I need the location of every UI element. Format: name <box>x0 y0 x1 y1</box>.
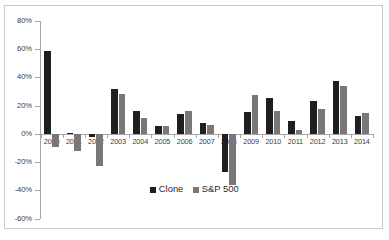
bar-clone-2009 <box>244 112 251 134</box>
value-axis-label: 40% <box>0 73 32 81</box>
bar-clone-2010 <box>266 98 273 134</box>
bar-clone-2007 <box>200 123 207 134</box>
category-axis-label: 2009 <box>240 138 262 145</box>
bar-clone-2008 <box>222 134 229 172</box>
value-axis-label: 0% <box>0 130 32 138</box>
category-axis-label: 2010 <box>262 138 284 145</box>
bar-clone-2001 <box>67 133 74 134</box>
bar-s-p-500-2006 <box>185 111 192 134</box>
category-axis-tick <box>373 134 374 138</box>
bar-s-p-500-2014 <box>362 113 369 134</box>
value-axis-tick <box>35 77 40 78</box>
value-axis-tick <box>35 162 40 163</box>
value-axis-tick <box>35 49 40 50</box>
bar-s-p-500-2002 <box>96 134 103 166</box>
value-axis-tick <box>35 106 40 107</box>
value-axis-tick <box>35 219 40 220</box>
value-axis-tick <box>35 134 40 135</box>
bar-s-p-500-2012 <box>318 109 325 134</box>
category-axis-label: 2004 <box>129 138 151 145</box>
bar-s-p-500-2013 <box>340 86 347 134</box>
bar-chart-plot-area: 80%60%40%20%0%-20%-40%-60% 2000200120022… <box>5 6 384 230</box>
bar-clone-2004 <box>133 111 140 134</box>
value-axis-label: -60% <box>0 215 32 223</box>
bar-clone-2011 <box>288 121 295 134</box>
legend-label: Clone <box>159 184 184 193</box>
bar-s-p-500-2010 <box>274 111 281 134</box>
category-axis-label: 2012 <box>307 138 329 145</box>
bar-s-p-500-2007 <box>207 125 214 134</box>
value-axis-tick <box>35 21 40 22</box>
bar-s-p-500-2011 <box>296 130 303 134</box>
bar-s-p-500-2004 <box>141 118 148 134</box>
bar-s-p-500-2009 <box>252 95 259 134</box>
bar-clone-2006 <box>177 114 184 134</box>
category-axis-label: 2013 <box>329 138 351 145</box>
bar-s-p-500-2008 <box>229 134 236 185</box>
value-axis-label: 60% <box>0 45 32 53</box>
bar-clone-2014 <box>355 116 362 134</box>
bar-s-p-500-2005 <box>163 126 170 134</box>
category-axis-label: 2005 <box>151 138 173 145</box>
bar-clone-2000 <box>44 51 51 134</box>
legend-item-sp500: S&P 500 <box>193 184 238 193</box>
value-axis-label: 20% <box>0 102 32 110</box>
category-axis-label: 2011 <box>284 138 306 145</box>
legend-swatch-clone <box>150 187 156 193</box>
legend-item-clone: Clone <box>150 184 183 193</box>
category-axis-label: 2014 <box>351 138 373 145</box>
chart-legend: CloneS&P 500 <box>5 184 384 193</box>
bar-s-p-500-2000 <box>52 134 59 147</box>
category-axis-label: 2006 <box>174 138 196 145</box>
legend-swatch-sp500 <box>193 187 199 193</box>
bar-clone-2002 <box>89 134 96 137</box>
bar-clone-2003 <box>111 89 118 133</box>
value-axis-label: 80% <box>0 17 32 25</box>
category-axis-label: 2003 <box>107 138 129 145</box>
bar-s-p-500-2003 <box>119 94 126 134</box>
legend-label: S&P 500 <box>202 184 239 193</box>
bar-clone-2005 <box>155 126 162 134</box>
bar-s-p-500-2001 <box>74 134 81 151</box>
category-axis-label: 2007 <box>196 138 218 145</box>
value-axis-label: -20% <box>0 158 32 166</box>
bar-clone-2012 <box>310 101 317 134</box>
bar-clone-2013 <box>333 81 340 134</box>
chart-frame: 80%60%40%20%0%-20%-40%-60% 2000200120022… <box>4 5 383 229</box>
